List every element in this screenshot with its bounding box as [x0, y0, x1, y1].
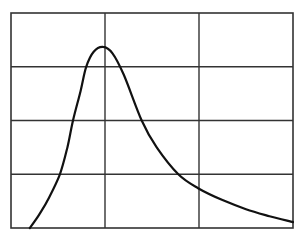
- data-curve: [30, 47, 293, 228]
- line-chart: [0, 0, 303, 240]
- chart-grid: [11, 13, 293, 228]
